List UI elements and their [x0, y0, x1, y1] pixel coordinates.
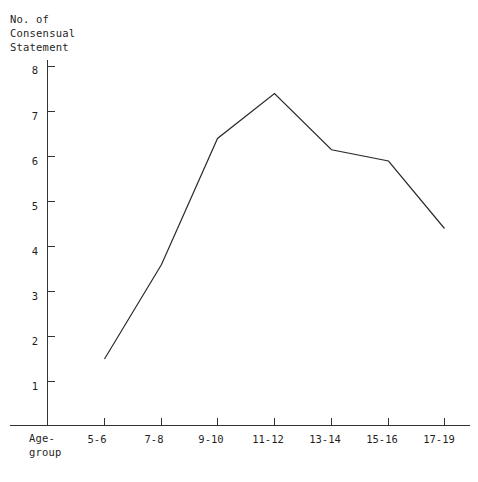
plot-canvas	[0, 0, 478, 482]
line-chart-figure: No. of Consensual Statement Age- group 1…	[0, 0, 478, 482]
data-series-line	[105, 94, 445, 360]
